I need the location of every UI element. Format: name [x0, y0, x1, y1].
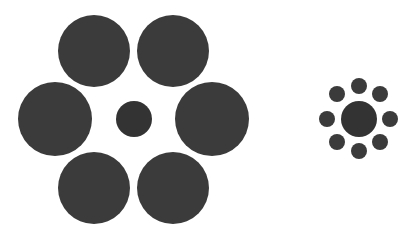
surround-circle — [329, 86, 345, 102]
center-circle — [116, 101, 152, 137]
surround-circle — [137, 152, 209, 224]
surround-circle — [58, 15, 130, 87]
surround-circle — [137, 15, 209, 87]
right-figure-small-surround — [319, 78, 398, 159]
surround-circle — [382, 111, 398, 127]
surround-circle — [319, 111, 335, 127]
surround-circle — [329, 134, 345, 150]
surround-circle — [372, 134, 388, 150]
surround-circle — [351, 143, 367, 159]
surround-circle — [58, 152, 130, 224]
ebbinghaus-illusion-diagram — [0, 0, 410, 234]
surround-circle — [351, 78, 367, 94]
center-circle — [341, 101, 377, 137]
surround-circle — [175, 82, 249, 156]
surround-circle — [18, 82, 92, 156]
surround-circle — [372, 86, 388, 102]
